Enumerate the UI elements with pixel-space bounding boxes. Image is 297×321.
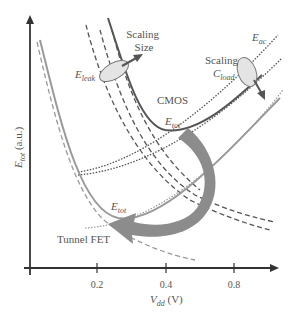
x-axis-arrowhead xyxy=(270,264,279,272)
cload-label: Cload xyxy=(213,67,236,82)
x-tick-label: 0.8 xyxy=(228,279,241,290)
tunnel-fet-label: Tunnel FET xyxy=(57,233,110,245)
y-axis-label-unit: (a.u.) xyxy=(12,127,25,153)
cmos-eleak-curve-3 xyxy=(112,30,200,190)
tfet-etot-label: Etot xyxy=(110,200,127,215)
x-axis-label: Vdd (V) xyxy=(150,293,183,308)
x-tick-label: 0.4 xyxy=(160,279,173,290)
scaling-size-ellipse xyxy=(96,56,132,86)
scaling-cload-label: Scaling xyxy=(205,54,238,66)
cmos-label: CMOS xyxy=(157,94,188,106)
y-axis-label: Etot (a.u.) xyxy=(12,127,27,169)
x-tick-label: 0.2 xyxy=(91,279,104,290)
axes: 0.2 0.4 0.8 Vdd (V) Etot (a.u.) xyxy=(12,15,279,308)
improvement-arrow xyxy=(108,128,216,244)
cmos-etot-label: Etot xyxy=(164,115,181,130)
scaling-cload-arrowhead xyxy=(257,90,265,100)
eleak-label: Eleak xyxy=(74,68,96,83)
y-axis-arrowhead xyxy=(26,15,34,24)
energy-vs-vdd-diagram: 0.2 0.4 0.8 Vdd (V) Etot (a.u.) Scaling … xyxy=(0,0,297,321)
eac-label: Eac xyxy=(251,31,267,46)
scaling-size-label: Scaling Size xyxy=(126,28,162,53)
x-axis-label-unit: (V) xyxy=(165,293,183,306)
